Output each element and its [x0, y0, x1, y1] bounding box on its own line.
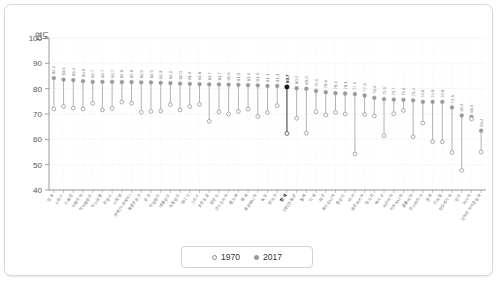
svg-text:82.0: 82.0: [178, 71, 183, 80]
svg-text:63.4: 63.4: [479, 118, 484, 127]
svg-text:90: 90: [33, 59, 42, 68]
svg-text:81.1: 81.1: [275, 73, 280, 82]
filled-circle-icon: [254, 255, 259, 260]
svg-text:81.1: 81.1: [265, 73, 270, 82]
svg-text:72.6: 72.6: [450, 95, 455, 104]
svg-text:60: 60: [33, 135, 42, 144]
svg-text:일본: 일본: [45, 192, 55, 202]
svg-text:80.0: 80.0: [304, 76, 309, 85]
svg-text:81.4: 81.4: [246, 72, 251, 81]
svg-text:벨기에: 벨기에: [227, 192, 239, 205]
plot-area: 연도 40506070809010084.2일본83.6스위스83.4스페인83…: [5, 5, 494, 235]
svg-text:체코: 체코: [317, 192, 327, 202]
svg-text:77.3: 77.3: [362, 83, 367, 92]
svg-text:미국: 미국: [307, 192, 317, 202]
svg-text:82.7: 82.7: [90, 69, 95, 78]
svg-text:독일: 독일: [259, 192, 269, 202]
svg-text:캐나다: 캐나다: [179, 192, 191, 205]
svg-text:폴란드: 폴란드: [334, 192, 346, 205]
svg-text:76.4: 76.4: [372, 85, 377, 94]
svg-text:80.7: 80.7: [285, 74, 290, 83]
legend-item-1970[interactable]: 1970: [212, 252, 240, 262]
svg-text:헝가리: 헝가리: [363, 192, 375, 205]
svg-text:82.2: 82.2: [168, 70, 173, 79]
svg-text:40: 40: [33, 186, 42, 195]
svg-text:스위스: 스위스: [53, 192, 65, 205]
svg-text:덴마크: 덴마크: [266, 192, 278, 205]
svg-text:83.4: 83.4: [71, 67, 76, 76]
svg-text:80.2: 80.2: [294, 75, 299, 84]
svg-text:80: 80: [33, 85, 42, 94]
svg-text:74.8: 74.8: [440, 89, 445, 98]
open-circle-icon: [212, 255, 217, 260]
svg-text:칠레: 칠레: [298, 192, 308, 202]
svg-text:75.4: 75.4: [411, 87, 416, 96]
chart-card: 연도 40506070809010084.2일본83.6스위스83.4스페인83…: [4, 4, 493, 276]
svg-text:100: 100: [29, 34, 43, 43]
svg-text:82.6: 82.6: [119, 69, 124, 78]
legend-label-1970: 1970: [221, 252, 240, 262]
svg-text:81.3: 81.3: [255, 73, 260, 82]
svg-text:81.7: 81.7: [207, 72, 212, 81]
svg-text:82.7: 82.7: [110, 69, 115, 78]
svg-text:호주: 호주: [143, 193, 152, 202]
svg-text:인도: 인도: [453, 192, 463, 202]
legend-item-2017[interactable]: 2017: [254, 252, 282, 262]
svg-text:74.8: 74.8: [430, 89, 435, 98]
svg-text:한국: 한국: [278, 192, 288, 202]
svg-text:터키: 터키: [346, 192, 356, 202]
svg-text:81.7: 81.7: [217, 72, 222, 81]
svg-text:84.2: 84.2: [51, 65, 56, 74]
svg-text:74.8: 74.8: [420, 89, 425, 98]
svg-text:82.7: 82.7: [100, 69, 105, 78]
svg-text:83.0: 83.0: [81, 68, 86, 77]
svg-text:82.3: 82.3: [158, 70, 163, 79]
svg-text:77.9: 77.9: [353, 81, 358, 90]
svg-text:75.7: 75.7: [391, 87, 396, 96]
svg-text:78.6: 78.6: [323, 79, 328, 88]
svg-text:78.1: 78.1: [343, 81, 348, 90]
svg-text:중국: 중국: [425, 193, 434, 202]
svg-text:82.5: 82.5: [139, 70, 144, 79]
svg-text:82.6: 82.6: [129, 69, 134, 78]
svg-text:79.1: 79.1: [314, 78, 319, 87]
legend-label-2017: 2017: [263, 252, 282, 262]
svg-text:81.8: 81.8: [197, 71, 202, 80]
svg-text:75.6: 75.6: [401, 87, 406, 96]
svg-text:82.5: 82.5: [149, 70, 154, 79]
svg-text:75.9: 75.9: [382, 86, 387, 95]
svg-text:68.9: 68.9: [469, 104, 474, 113]
svg-text:81.5: 81.5: [236, 72, 241, 81]
svg-text:83.6: 83.6: [61, 67, 66, 76]
svg-text:78.2: 78.2: [333, 80, 338, 89]
svg-text:70: 70: [33, 110, 42, 119]
screenshot-root: 연도 40506070809010084.2일본83.6스위스83.4스페인83…: [0, 0, 499, 282]
svg-text:영국: 영국: [239, 192, 249, 202]
svg-text:81.6: 81.6: [226, 72, 231, 81]
svg-text:69.4: 69.4: [459, 103, 464, 112]
svg-text:81.9: 81.9: [187, 71, 192, 80]
chart-legend: 1970 2017: [181, 246, 313, 268]
dumbbell-chart: 40506070809010084.2일본83.6스위스83.4스페인83.0이…: [5, 5, 494, 235]
svg-text:프랑스: 프랑스: [101, 192, 113, 205]
svg-text:50: 50: [33, 161, 42, 170]
